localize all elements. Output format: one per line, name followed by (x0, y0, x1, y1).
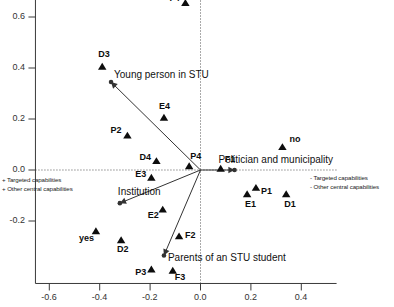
point-label-e4: E4 (159, 102, 170, 111)
x-tick-label-4: 0.2 (244, 293, 257, 302)
point-label-p3: P3 (135, 268, 146, 277)
x-tick-label-5: 0.4 (295, 293, 308, 302)
biplot-figure: 0.60.40.20.0-0.2-0.6-0.4-0.20.00.20.4You… (0, 0, 394, 307)
point-label-p4: P4 (190, 152, 201, 161)
point-label-p1: P1 (261, 187, 272, 196)
point-label-d1: D1 (284, 200, 296, 209)
vector-label-institution: Institution (118, 187, 161, 197)
y-tick-label-4: -0.2 (9, 216, 25, 225)
y-tick-label-3: 0.0 (12, 165, 25, 174)
point-label-e2: E2 (148, 211, 159, 220)
point-label-f1: F1 (225, 155, 236, 164)
data-point-e2 (158, 206, 166, 213)
data-point-e4 (160, 114, 168, 121)
point-label-f4: F4 (169, 0, 180, 3)
x-tick-label-3: 0.0 (194, 293, 207, 302)
data-point-p4 (185, 162, 193, 169)
point-label-d2: D2 (117, 245, 129, 254)
point-label-e3: E3 (135, 170, 146, 179)
data-point-d3 (98, 63, 106, 70)
data-point-f1 (216, 165, 224, 172)
x-tick-label-1: -0.4 (92, 293, 108, 302)
point-label-yes: yes (79, 234, 94, 243)
data-point-p1 (252, 184, 260, 191)
right-legend-line-1: - Other central capabilities (310, 184, 379, 190)
point-label-d3: D3 (98, 50, 110, 59)
right-legend-line-0: - Targeted capabilities (310, 175, 368, 181)
y-tick-label-0: 0.6 (12, 12, 25, 21)
data-point-f2 (175, 232, 183, 239)
data-point-e1 (243, 190, 251, 197)
data-point-no (278, 143, 286, 150)
data-point-f4 (181, 0, 189, 6)
point-label-f3: F3 (175, 273, 186, 282)
vector-label-parents-of-an-stu-student: Parents of an STU student (168, 253, 286, 263)
data-point-d2 (117, 236, 125, 243)
data-point-p2 (123, 132, 131, 139)
x-tick-label-0: -0.6 (41, 293, 57, 302)
x-tick-label-2: -0.2 (142, 293, 158, 302)
point-label-e1: E1 (245, 200, 256, 209)
point-label-p2: P2 (110, 126, 121, 135)
left-legend-line-0: + Targeted capabilities (2, 177, 61, 183)
point-label-d4: D4 (139, 153, 151, 162)
data-point-d1 (282, 190, 290, 197)
data-point-d4 (152, 157, 160, 164)
point-label-no: no (289, 135, 300, 144)
vector-0 (109, 80, 201, 170)
point-label-f2: F2 (185, 231, 196, 240)
vector-label-politician-and-municipality: Politician and municipality (219, 155, 334, 165)
y-tick-label-1: 0.4 (12, 63, 25, 72)
y-tick-label-2: 0.2 (12, 114, 25, 123)
vector-label-young-person-in-stu: Young person in STU (114, 70, 209, 80)
data-point-p3 (147, 266, 155, 273)
left-legend-line-1: + Other central capabilities (2, 186, 73, 192)
data-point-e3 (147, 174, 155, 181)
